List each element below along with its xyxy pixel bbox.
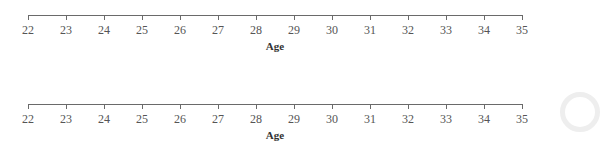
tick-mark — [446, 15, 447, 20]
tick-mark — [332, 15, 333, 20]
tick-label: 23 — [60, 23, 72, 38]
tick-label: 28 — [250, 112, 262, 127]
tick-mark — [104, 15, 105, 20]
tick-mark — [446, 104, 447, 109]
tick-mark — [408, 15, 409, 20]
tick-label: 35 — [516, 23, 528, 38]
tick-mark — [218, 104, 219, 109]
decorative-circle-icon — [560, 92, 600, 132]
tick-label: 34 — [478, 23, 490, 38]
tick-label: 27 — [212, 23, 224, 38]
tick-label: 22 — [22, 112, 34, 127]
tick-label: 30 — [326, 23, 338, 38]
tick-label: 24 — [98, 23, 110, 38]
tick-mark — [180, 15, 181, 20]
tick-mark — [142, 104, 143, 109]
tick-mark — [142, 15, 143, 20]
tick-mark — [104, 104, 105, 109]
tick-mark — [522, 15, 523, 20]
tick-label: 23 — [60, 112, 72, 127]
tick-mark — [370, 104, 371, 109]
tick-mark — [28, 104, 29, 109]
tick-mark — [256, 15, 257, 20]
tick-mark — [256, 104, 257, 109]
tick-mark — [66, 15, 67, 20]
tick-mark — [522, 104, 523, 109]
tick-label: 27 — [212, 112, 224, 127]
tick-label: 34 — [478, 112, 490, 127]
number-line-1: Age 2223242526272829303132333435 — [0, 0, 579, 60]
tick-label: 29 — [288, 23, 300, 38]
tick-label: 33 — [440, 112, 452, 127]
tick-mark — [370, 15, 371, 20]
tick-mark — [484, 104, 485, 109]
tick-mark — [294, 15, 295, 20]
tick-label: 24 — [98, 112, 110, 127]
tick-label: 32 — [402, 23, 414, 38]
tick-label: 25 — [136, 23, 148, 38]
tick-label: 31 — [364, 112, 376, 127]
tick-label: 26 — [174, 112, 186, 127]
tick-label: 35 — [516, 112, 528, 127]
tick-label: 26 — [174, 23, 186, 38]
tick-label: 29 — [288, 112, 300, 127]
tick-label: 30 — [326, 112, 338, 127]
tick-mark — [484, 15, 485, 20]
axis-line — [28, 15, 523, 16]
axis-line — [28, 104, 523, 105]
tick-mark — [180, 104, 181, 109]
tick-label: 25 — [136, 112, 148, 127]
tick-label: 28 — [250, 23, 262, 38]
axis-title: Age — [266, 40, 284, 52]
tick-label: 33 — [440, 23, 452, 38]
tick-mark — [408, 104, 409, 109]
tick-mark — [66, 104, 67, 109]
tick-label: 32 — [402, 112, 414, 127]
tick-mark — [218, 15, 219, 20]
number-line-2: Age 2223242526272829303132333435 — [0, 89, 579, 149]
tick-mark — [294, 104, 295, 109]
tick-mark — [28, 15, 29, 20]
tick-label: 22 — [22, 23, 34, 38]
tick-mark — [332, 104, 333, 109]
tick-label: 31 — [364, 23, 376, 38]
axis-title: Age — [266, 129, 284, 141]
